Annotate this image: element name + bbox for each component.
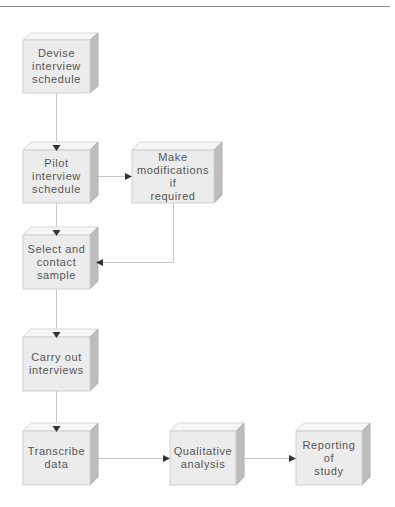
arrowhead-right-icon (125, 173, 132, 180)
node-qualitative-label: Qualitative analysis (170, 431, 236, 485)
node-transcribe-label: Transcribe data (23, 431, 90, 485)
node-select-label: Select and contact sample (23, 235, 90, 289)
node-pilot-label: Pilot interview schedule (23, 150, 90, 203)
node-devise-label: Devise interview schedule (23, 40, 90, 93)
node-modify-label: Make modifications if required (132, 150, 214, 203)
node-reporting-label: Reporting of study (296, 431, 362, 485)
arrowhead-right-icon (289, 455, 296, 462)
arrowhead-right-icon (163, 455, 170, 462)
node-carry-label: Carry out interviews (23, 337, 90, 391)
edge-modify-select (102, 203, 174, 263)
